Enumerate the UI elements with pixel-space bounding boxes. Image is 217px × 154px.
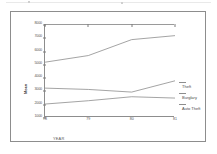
series-line-auto-theft: [45, 97, 175, 104]
x-axis-tick-label: 80: [130, 118, 134, 122]
legend-label: Burglary: [182, 96, 197, 100]
y-axis-tick-label: 2000: [34, 102, 44, 106]
x-axis-tick-label: 79: [86, 118, 90, 122]
scan-artifact-line: [6, 2, 211, 3]
y-axis-tick-label: 8000: [34, 22, 44, 26]
series-line-theft: [45, 36, 175, 63]
series-line-burglary: [45, 81, 175, 92]
legend-item-theft: Theft: [179, 80, 217, 91]
line-chart-svg: [45, 25, 175, 118]
scan-speck: [28, 1, 30, 3]
y-axis-tick-label: 6000: [34, 49, 44, 53]
y-axis-tick-label: 1000: [34, 115, 44, 119]
y-axis-tick-label: 5000: [34, 62, 44, 66]
y-axis-title: Mean: [24, 84, 28, 94]
x-axis-tick-mark: [131, 24, 132, 27]
legend-label: Theft: [182, 85, 191, 89]
legend-line-swatch: [179, 82, 186, 83]
x-axis-tick-mark: [88, 24, 89, 27]
x-axis-tick-mark: [175, 24, 176, 27]
legend-item-auto-theft: Auto Theft: [179, 102, 217, 113]
scan-speck: [121, 2, 123, 4]
legend-item-burglary: Burglary: [179, 91, 217, 102]
legend-label: Auto Theft: [182, 107, 200, 111]
plot-area: 78798081: [44, 24, 174, 117]
x-axis-tick-mark: [45, 24, 46, 27]
y-axis-tick-label: 7000: [34, 35, 44, 39]
legend-line-swatch: [179, 104, 186, 105]
y-axis-tick-label: 3000: [34, 89, 44, 93]
x-axis-title: YEAR: [53, 136, 64, 141]
chart-figure-frame: Mean 78798081 YEAR TheftBurglaryAuto The…: [10, 11, 206, 142]
chart-legend: TheftBurglaryAuto Theft: [179, 80, 217, 113]
y-axis-tick-label: 4000: [34, 75, 44, 79]
x-axis-tick-label: 81: [173, 118, 177, 122]
legend-line-swatch: [179, 93, 186, 94]
